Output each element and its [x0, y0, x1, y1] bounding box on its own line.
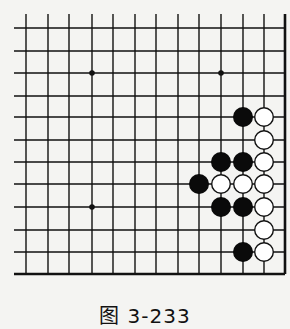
black-stone	[212, 153, 231, 172]
black-stone	[234, 108, 253, 127]
white-stone	[255, 108, 274, 127]
black-stone	[212, 198, 231, 217]
white-stone	[255, 153, 274, 172]
white-stone	[255, 175, 274, 194]
black-stone	[190, 175, 209, 194]
white-stone	[255, 221, 274, 240]
white-stone	[255, 243, 274, 262]
star-point	[218, 70, 224, 76]
black-stone	[234, 243, 253, 262]
white-stone	[255, 131, 274, 150]
black-stone	[234, 198, 253, 217]
grid-lines	[14, 14, 285, 274]
star-point	[89, 204, 95, 210]
star-point	[89, 70, 95, 76]
white-stone	[212, 175, 231, 194]
figure-caption: 图 3-233	[0, 300, 290, 329]
black-stone	[234, 153, 253, 172]
white-stone	[255, 198, 274, 217]
white-stone	[234, 175, 253, 194]
go-board	[0, 0, 290, 300]
